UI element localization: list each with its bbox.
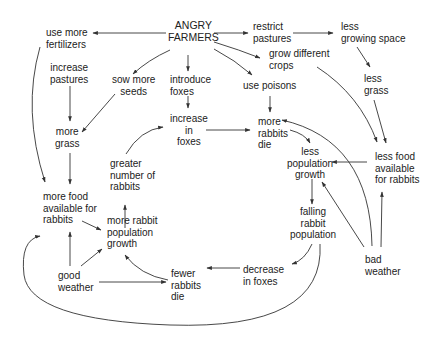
node-grow-different-crops: grow different crops <box>269 48 329 71</box>
node-line: population <box>290 229 336 241</box>
node-line: more <box>55 126 79 138</box>
node-line: weather <box>365 266 401 278</box>
node-line: growth <box>107 238 158 250</box>
node-line: die <box>171 291 201 303</box>
node-increase-in-foxes: increase in foxes <box>170 113 208 148</box>
node-line: use poisons <box>243 80 296 92</box>
node-line: available for <box>43 203 97 215</box>
diagram-canvas: ANGRY FARMERS use more fertilizers restr… <box>0 0 441 339</box>
edge-good-growth <box>81 249 102 266</box>
node-more-rabbits-die: more rabbits die <box>258 116 288 151</box>
node-line: increase <box>170 113 208 125</box>
node-line: seeds <box>112 86 155 98</box>
node-line: rabbits <box>171 280 201 292</box>
node-greater-number-of-rabbits: greater number of rabbits <box>110 158 155 193</box>
node-line: less <box>364 73 388 85</box>
edge-fewer-more <box>125 255 168 280</box>
node-less-population-growth: less population growth <box>287 146 333 181</box>
node-line: population <box>107 227 158 239</box>
node-line: fewer <box>171 268 201 280</box>
node-line: pastures <box>253 33 291 45</box>
node-line: falling <box>290 206 336 218</box>
node-introduce-foxes: introduce foxes <box>170 74 211 97</box>
node-line: rabbit <box>290 218 336 230</box>
node-line: rabbits <box>110 181 155 193</box>
node-line: less food <box>375 151 419 163</box>
edge-fertilizers-food <box>32 47 45 182</box>
node-line: for rabbits <box>375 174 419 186</box>
node-more-grass: more grass <box>55 126 79 149</box>
node-line: greater <box>110 158 155 170</box>
edge-bad-lessfood <box>381 192 382 247</box>
edge-greater-increase <box>126 127 163 154</box>
node-good-weather: good weather <box>58 270 94 293</box>
node-line: number of <box>110 170 155 182</box>
node-line: use more <box>46 27 88 39</box>
node-line: less <box>341 21 405 33</box>
node-line: grass <box>364 85 388 97</box>
node-falling-rabbit-population: falling rabbit population <box>290 206 336 241</box>
node-line: FARMERS <box>168 32 219 44</box>
node-line: less <box>287 146 333 158</box>
node-line: rabbits <box>258 128 288 140</box>
edge-lessgrass-lessfood <box>374 100 386 143</box>
node-more-food-available: more food available for rabbits <box>43 191 97 226</box>
node-line: increase <box>50 62 88 74</box>
node-line: more rabbit <box>107 215 158 227</box>
node-less-grass: less grass <box>364 73 388 96</box>
edge-die-lessgrowth <box>290 130 310 143</box>
node-line: crops <box>269 60 329 72</box>
node-increase-pastures: increase pastures <box>50 62 88 85</box>
node-sow-more-seeds: sow more seeds <box>112 74 155 97</box>
node-line: bad <box>365 254 401 266</box>
node-line: fertilizers <box>46 39 88 51</box>
node-line: grow different <box>269 48 329 60</box>
node-line: more food <box>43 191 97 203</box>
node-line: introduce <box>170 74 211 86</box>
node-line: grass <box>55 138 79 150</box>
node-line: pastures <box>50 74 88 86</box>
edge-space-grass <box>357 47 370 67</box>
node-line: population <box>287 158 333 170</box>
node-angry-farmers: ANGRY FARMERS <box>168 20 219 43</box>
node-fewer-rabbits-die: fewer rabbits die <box>171 268 201 303</box>
node-decrease-in-foxes: decrease in foxes <box>243 264 284 287</box>
node-line: growth <box>287 169 333 181</box>
node-line: ANGRY <box>168 20 219 32</box>
node-line: in foxes <box>243 276 284 288</box>
node-line: decrease <box>243 264 284 276</box>
node-line: foxes <box>170 86 211 98</box>
node-bad-weather: bad weather <box>365 254 401 277</box>
node-less-food-available: less food available for rabbits <box>375 151 419 186</box>
node-line: weather <box>58 282 94 294</box>
node-line: sow more <box>112 74 155 86</box>
node-line: restrict <box>253 21 291 33</box>
node-line: good <box>58 270 94 282</box>
node-line: foxes <box>170 136 208 148</box>
node-less-growing-space: less growing space <box>341 21 405 44</box>
node-use-poisons: use poisons <box>243 80 296 92</box>
edge-seeds-grass <box>82 94 115 132</box>
node-line: available <box>375 163 419 175</box>
node-line: rabbits <box>43 214 97 226</box>
edge-falling-decrease <box>292 244 312 264</box>
edge-farmers-crops <box>214 42 260 58</box>
node-line: die <box>258 139 288 151</box>
node-line: more <box>258 116 288 128</box>
edge-farmers-seeds <box>133 50 170 74</box>
node-more-rabbit-population-growth: more rabbit population growth <box>107 215 158 250</box>
node-use-more-fertilizers: use more fertilizers <box>46 27 88 50</box>
node-line: in <box>170 125 208 137</box>
node-restrict-pastures: restrict pastures <box>253 21 291 44</box>
node-line: growing space <box>341 33 405 45</box>
